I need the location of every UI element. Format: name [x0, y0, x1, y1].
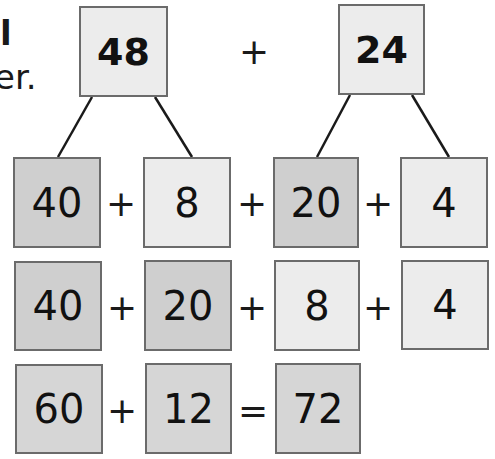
row3-box-72-result: 72 — [275, 363, 361, 454]
row2-operator-1: + — [102, 290, 142, 326]
branch-line-48-to-40 — [58, 97, 92, 157]
row1-box-4: 4 — [400, 157, 488, 248]
branch-line-24-to-4 — [412, 95, 449, 157]
row3-box-12: 12 — [145, 363, 232, 454]
row2-box-4: 4 — [401, 260, 489, 350]
branch-line-24-to-20 — [317, 95, 350, 157]
row3-operator-equals: = — [233, 393, 273, 429]
row2-box-40: 40 — [14, 261, 102, 351]
row3-operator-plus: + — [102, 393, 142, 429]
row1-box-40: 40 — [13, 157, 101, 248]
number-box-48: 48 — [79, 6, 168, 97]
row1-box-20: 20 — [273, 157, 359, 248]
row1-operator-3: + — [358, 186, 398, 222]
row1-box-8: 8 — [143, 157, 231, 248]
row2-operator-3: + — [358, 290, 398, 326]
branch-line-48-to-8 — [155, 97, 192, 157]
number-box-24: 24 — [338, 4, 425, 95]
row3-box-60: 60 — [15, 364, 103, 454]
row1-operator-1: + — [101, 186, 141, 222]
row2-box-20: 20 — [144, 260, 232, 351]
row2-operator-2: + — [232, 290, 272, 326]
row1-operator-2: + — [232, 186, 272, 222]
row2-box-8: 8 — [274, 260, 360, 351]
plus-operator-top: + — [234, 34, 274, 70]
